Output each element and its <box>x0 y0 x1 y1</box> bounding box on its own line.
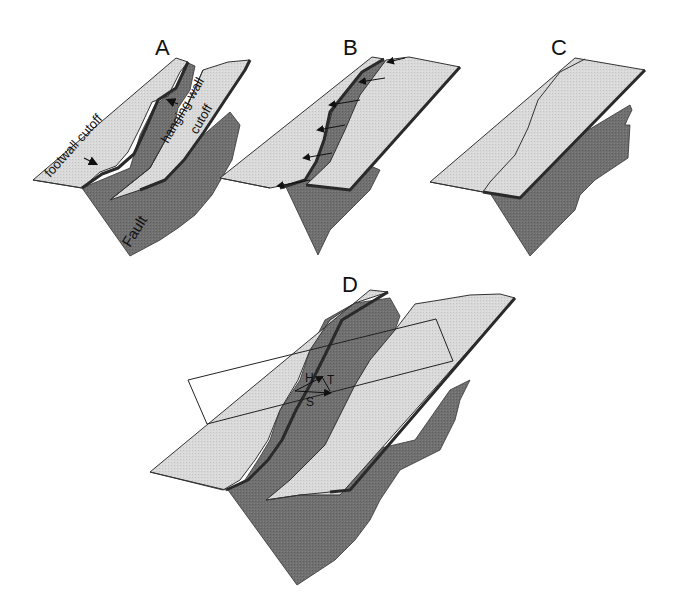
panel-c: C <box>430 35 645 256</box>
s-label: S <box>306 395 314 409</box>
t-label: T <box>327 373 335 387</box>
h-label: H <box>305 371 314 385</box>
panel-b: B <box>220 35 460 255</box>
panel-a-label: A <box>155 35 170 60</box>
panel-b-label: B <box>343 35 358 60</box>
panel-d: D H T S <box>150 272 515 585</box>
panel-d-label: D <box>342 272 358 297</box>
fault-diagram: A footwall cutoff hanging-wall cutoff Fa… <box>0 0 678 606</box>
panel-c-label: C <box>551 35 567 60</box>
panel-a: A footwall cutoff hanging-wall cutoff Fa… <box>33 35 250 256</box>
